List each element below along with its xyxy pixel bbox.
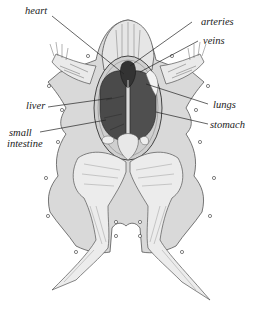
label-heart: heart (25, 5, 47, 16)
label-intestine: intestine (7, 138, 43, 149)
frog-illustration (0, 0, 255, 311)
label-small: small (9, 127, 32, 138)
frog-anatomy-diagram: heart arteries veins liver lungs small i… (0, 0, 255, 311)
label-arteries: arteries (201, 16, 234, 27)
label-lungs: lungs (213, 99, 236, 110)
label-veins: veins (203, 35, 225, 46)
label-liver: liver (26, 100, 45, 111)
label-stomach: stomach (210, 119, 245, 130)
